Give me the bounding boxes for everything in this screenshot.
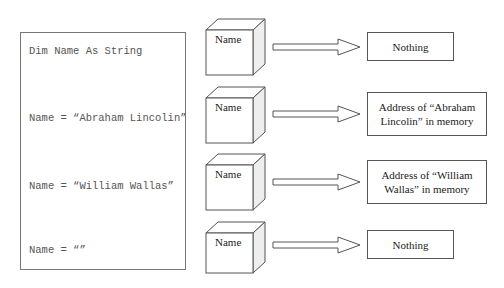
cube-label-2: Name bbox=[215, 101, 241, 113]
value-box-1: Nothing bbox=[367, 32, 454, 61]
arrow-2 bbox=[273, 106, 360, 122]
arrow-4 bbox=[273, 237, 360, 253]
variable-cube-2 bbox=[206, 87, 265, 143]
value-box-4: Nothing bbox=[367, 230, 454, 259]
cube-label-3: Name bbox=[215, 168, 241, 180]
arrow-3 bbox=[273, 174, 360, 190]
value-box-3: Address of “William Wallas” in memory bbox=[367, 160, 487, 204]
arrow-1 bbox=[273, 39, 360, 55]
variable-cube-1 bbox=[206, 19, 265, 75]
value-box-2: Address of “Abraham Lincolin” in memory bbox=[367, 92, 487, 136]
cube-label-4: Name bbox=[215, 236, 241, 248]
cube-label-1: Name bbox=[215, 33, 241, 45]
variable-cube-3 bbox=[206, 154, 265, 210]
